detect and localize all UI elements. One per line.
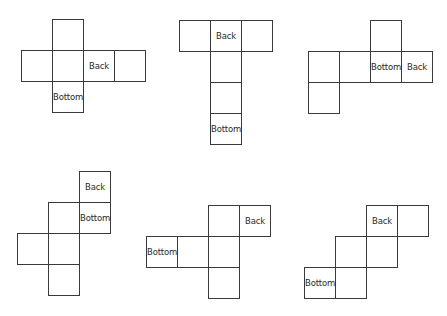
face-label: Bottom <box>53 92 83 102</box>
face-square <box>177 236 209 268</box>
face-bottom: Bottom <box>52 81 84 113</box>
face-label: Bottom <box>305 278 335 288</box>
face-bottom: Bottom <box>370 51 402 83</box>
face-label: Bottom <box>147 247 177 257</box>
face-square <box>397 205 429 237</box>
face-square <box>208 267 240 299</box>
face-square <box>241 20 273 52</box>
face-bottom: Bottom <box>304 267 336 299</box>
face-square <box>17 233 49 265</box>
face-square <box>370 20 402 52</box>
face-back: Back <box>239 205 271 237</box>
face-square <box>366 236 398 268</box>
face-bottom: Bottom <box>210 113 242 145</box>
face-back: Back <box>79 171 111 203</box>
face-label: Back <box>85 182 105 192</box>
face-square <box>210 51 242 83</box>
face-label: Bottom <box>371 62 401 72</box>
face-back: Back <box>366 205 398 237</box>
face-square <box>308 82 340 114</box>
face-square <box>208 236 240 268</box>
face-label: Back <box>216 31 236 41</box>
face-square <box>335 267 367 299</box>
face-label: Bottom <box>211 124 241 134</box>
face-back: Back <box>401 51 433 83</box>
face-square <box>208 205 240 237</box>
face-square <box>52 50 84 82</box>
face-label: Bottom <box>80 213 110 223</box>
face-label: Back <box>407 62 427 72</box>
face-square <box>48 264 80 296</box>
face-label: Back <box>372 216 392 226</box>
face-back: Back <box>210 20 242 52</box>
face-back: Back <box>83 50 115 82</box>
face-bottom: Bottom <box>146 236 178 268</box>
face-square <box>179 20 211 52</box>
face-square <box>308 51 340 83</box>
face-bottom: Bottom <box>79 202 111 234</box>
face-label: Back <box>245 216 265 226</box>
face-square <box>21 50 53 82</box>
face-square <box>48 202 80 234</box>
face-square <box>335 236 367 268</box>
face-square <box>339 51 371 83</box>
face-label: Back <box>89 61 109 71</box>
face-square <box>114 50 146 82</box>
face-square <box>48 233 80 265</box>
face-square <box>210 82 242 114</box>
face-square <box>52 19 84 51</box>
